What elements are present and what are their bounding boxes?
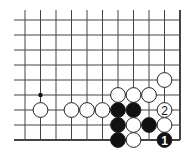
star-point: [38, 93, 42, 97]
move-number: 1: [161, 134, 168, 148]
star-points: [38, 93, 42, 97]
white-stone: 2: [157, 103, 172, 118]
black-stone: 1: [157, 133, 172, 148]
white-stone: [126, 88, 141, 103]
go-board: 21: [0, 0, 193, 157]
black-stone: [111, 118, 126, 133]
white-stone: [126, 118, 141, 133]
white-stone: [95, 103, 110, 118]
white-stone: [33, 103, 48, 118]
black-stone: [111, 133, 126, 148]
move-number: 2: [161, 104, 168, 118]
black-stone: [126, 103, 141, 118]
white-stone: [142, 88, 157, 103]
white-stone: [126, 133, 141, 148]
black-stone: [111, 103, 126, 118]
white-stone: [157, 73, 172, 88]
white-stone: [111, 88, 126, 103]
white-stone: [64, 103, 79, 118]
white-stone: [80, 103, 95, 118]
white-stone: [157, 118, 172, 133]
black-stone: [142, 118, 157, 133]
